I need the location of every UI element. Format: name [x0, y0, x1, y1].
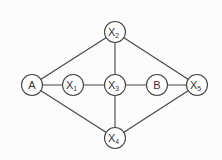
node-x4: X4: [105, 128, 126, 149]
node-b: B: [147, 75, 168, 96]
node-subscript: 3: [115, 84, 119, 91]
node-subscript: 4: [115, 137, 119, 144]
node-x2: X2: [105, 22, 126, 43]
node-subscript: 2: [115, 31, 119, 38]
node-label: B: [153, 79, 160, 91]
node-x1: X1: [63, 75, 84, 96]
node-a: A: [22, 75, 43, 96]
node-subscript: 1: [73, 84, 77, 91]
node-x3: X3: [105, 75, 126, 96]
node-label: A: [28, 79, 36, 91]
node-subscript: 5: [197, 84, 201, 91]
node-x5: X5: [187, 75, 208, 96]
graph-diagram: AX1X2X3X4X5B: [0, 0, 222, 160]
